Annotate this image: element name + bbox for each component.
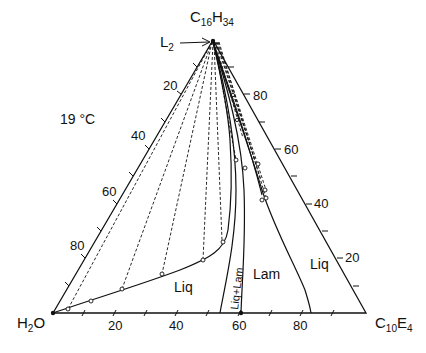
left-tick-label-20: 20 xyxy=(163,78,177,93)
triangle-frame xyxy=(53,40,366,313)
phase-label-liq-left: Liq xyxy=(174,279,193,295)
temperature-label: 19 °C xyxy=(60,111,95,127)
left-tick-label-60: 60 xyxy=(102,184,116,199)
right-tick-label-60: 60 xyxy=(284,142,298,157)
left-tick-label-80: 80 xyxy=(70,238,84,253)
point-60 xyxy=(239,311,243,315)
right-tick-label-80: 80 xyxy=(253,88,267,103)
bottom-tick-label-60: 60 xyxy=(232,318,246,333)
phase-label-liq-right: Liq xyxy=(310,256,329,272)
right-tick-label-40: 40 xyxy=(314,196,328,211)
bottom-tick-label-80: 80 xyxy=(293,318,307,333)
phase-label-l2: L2 xyxy=(160,33,174,53)
l2-arrow-line xyxy=(180,42,209,43)
vertex-label-left: H2O xyxy=(17,314,45,334)
left-axis-ticks xyxy=(65,63,197,286)
bottom-tick-label-20: 20 xyxy=(108,318,122,333)
vertex-label-right: C10E4 xyxy=(375,314,413,334)
liq-boundary-left xyxy=(53,42,231,313)
bottom-tick-label-40: 40 xyxy=(169,318,183,333)
vertex-point-left xyxy=(51,311,55,315)
right-axis-ticks xyxy=(228,67,359,286)
phase-label-liq-lam: Liq+Lam xyxy=(228,267,245,311)
vertex-label-top: C16H34 xyxy=(190,8,234,28)
right-tick-label-20: 20 xyxy=(345,250,359,265)
ternary-diagram: C16H34 H2O C10E4 L2 19 °C Liq Lam Liq Li… xyxy=(0,0,426,353)
phase-label-lam: Lam xyxy=(253,266,280,282)
left-tick-label-40: 40 xyxy=(131,128,145,143)
vertex-point-top xyxy=(211,39,215,43)
